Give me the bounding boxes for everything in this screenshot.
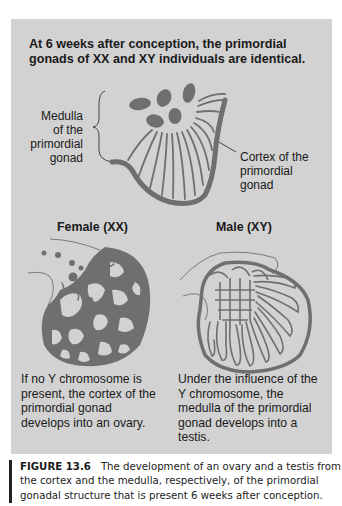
testis-drawing: [180, 252, 310, 372]
figure-number: FIGURE 13.6: [20, 461, 91, 472]
female-description: If no Y chromosome is present, the corte…: [21, 372, 159, 430]
male-title: Male (XY): [216, 220, 272, 235]
male-description: Under the influence of the Y chromosome,…: [178, 372, 318, 445]
ovary-drawing: [28, 239, 150, 366]
cortex-leader-line: [217, 141, 236, 152]
medulla-brace-icon: [93, 91, 112, 162]
primordial-gonad-drawing: [93, 82, 236, 204]
figure-caption: FIGURE 13.6The development of an ovary a…: [9, 460, 342, 503]
female-title: Female (XX): [57, 220, 128, 235]
